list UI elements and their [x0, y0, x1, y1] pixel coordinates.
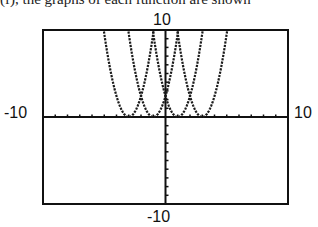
ymax-label: 10 — [153, 12, 171, 28]
xmin-label: -10 — [4, 105, 27, 121]
xmax-label: 10 — [294, 105, 312, 121]
ymin-label: -10 — [147, 209, 170, 225]
graph-plot — [0, 0, 318, 227]
